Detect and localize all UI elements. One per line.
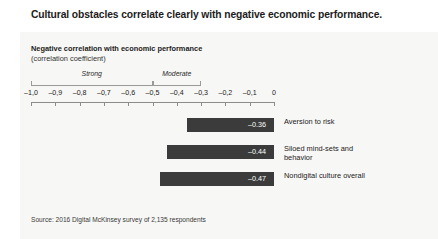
axis-tick-mark <box>225 102 226 106</box>
axis-bracket-label: Strong <box>82 70 102 77</box>
bar-row: –0.36Aversion to risk <box>31 118 431 144</box>
bar-category-label: Aversion to risk <box>284 117 334 126</box>
axis-tick-mark <box>274 102 275 106</box>
axis-tick-mark <box>177 102 178 106</box>
chart-subtitle-text: Negative correlation with economic perfo… <box>31 44 202 53</box>
axis-bracket <box>153 81 202 86</box>
bar-value-label: –0.44 <box>248 145 266 159</box>
axis-tick-label: –0,5 <box>146 89 160 97</box>
axis-tick-mark <box>250 102 251 106</box>
axis-tick-mark <box>31 102 32 106</box>
chart-subtitle: Negative correlation with economic perfo… <box>31 44 202 63</box>
bar-category-label: Nondigital culture overall <box>284 171 365 180</box>
axis-tick-label: –0,1 <box>243 89 257 97</box>
chart-panel: Negative correlation with economic perfo… <box>20 32 438 239</box>
page-title: Cultural obstacles correlate clearly wit… <box>31 8 427 21</box>
axis-tick-labels: –1,0–0,9–0,8–0,7–0,6–0,5–0,4–0,3–0,2–0,1… <box>31 89 321 101</box>
axis-tick-label: –0,2 <box>218 89 232 97</box>
bar-row: –0.47Nondigital culture overall <box>31 172 431 198</box>
axis-tick-label: 0 <box>272 89 276 97</box>
axis-tick-label: –0,8 <box>73 89 87 97</box>
axis-bracket-label: Moderate <box>162 70 191 77</box>
bar-row: –0.44Siloed mind-sets and behavior <box>31 145 431 171</box>
axis-tick-mark <box>80 102 81 106</box>
chart-unit-text: (correlation coefficient) <box>31 54 106 63</box>
axis-tick-label: –0,7 <box>97 89 111 97</box>
axis-tick-label: –0,6 <box>121 89 135 97</box>
axis-line <box>31 102 321 108</box>
axis-tick-mark <box>153 102 154 106</box>
axis-tick-mark <box>55 102 56 106</box>
bar-value-label: –0.47 <box>248 172 266 186</box>
axis-tick-mark <box>128 102 129 106</box>
bar-category-label: Siloed mind-sets and behavior <box>284 144 356 163</box>
axis-tick-label: –0,9 <box>48 89 62 97</box>
axis-tick-label: –0,3 <box>194 89 208 97</box>
axis-tick-mark <box>104 102 105 106</box>
axis-tick-label: –1,0 <box>24 89 38 97</box>
axis-bracket <box>31 81 153 86</box>
bar-value-label: –0.36 <box>248 118 266 132</box>
chart-axis: StrongModerate –1,0–0,9–0,8–0,7–0,6–0,5–… <box>31 70 321 112</box>
axis-tick-label: –0,4 <box>170 89 184 97</box>
chart-source: Source: 2016 Digital McKinsey survey of … <box>31 216 206 223</box>
axis-tick-mark <box>201 102 202 106</box>
bar-group: –0.36Aversion to risk–0.44Siloed mind-se… <box>31 118 431 208</box>
